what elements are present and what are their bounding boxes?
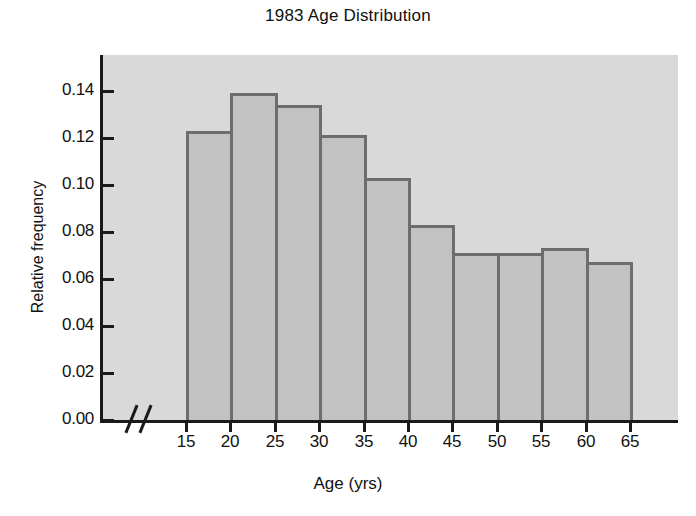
x-tick-mark: [229, 423, 232, 432]
x-tick-mark: [407, 423, 410, 432]
bar: [408, 225, 455, 420]
bar: [541, 248, 589, 420]
y-axis-title: Relative frequency: [29, 97, 47, 397]
y-tick-mark: [103, 90, 114, 93]
y-tick-label-text: 0.00: [36, 409, 94, 429]
x-tick-label: 20: [210, 432, 250, 452]
bar: [497, 253, 544, 420]
y-tick-label: 0.00: [26, 409, 94, 429]
y-tick-mark: [103, 325, 114, 328]
x-tick-mark: [185, 423, 188, 432]
x-tick-label: 30: [299, 432, 339, 452]
x-tick-label: 65: [610, 432, 650, 452]
x-tick-mark: [363, 423, 366, 432]
bar: [452, 253, 500, 420]
x-tick-label: 50: [477, 432, 517, 452]
x-axis-title: Age (yrs): [0, 474, 696, 494]
x-tick-label: 35: [344, 432, 384, 452]
bar: [364, 178, 411, 420]
x-tick-mark: [274, 423, 277, 432]
axis-break-icon: [126, 404, 160, 434]
bar: [586, 262, 633, 420]
bar: [186, 131, 233, 420]
x-tick-mark: [496, 423, 499, 432]
bar: [275, 105, 322, 420]
y-tick-mark: [103, 231, 114, 234]
x-tick-mark: [451, 423, 454, 432]
x-tick-mark: [318, 423, 321, 432]
x-tick-label: 40: [388, 432, 428, 452]
x-tick-label: 15: [166, 432, 206, 452]
y-tick-mark: [103, 137, 114, 140]
bar: [230, 93, 278, 420]
chart-title: 1983 Age Distribution: [0, 6, 696, 26]
y-axis-line: [100, 55, 103, 421]
x-tick-mark: [629, 423, 632, 432]
x-tick-mark: [585, 423, 588, 432]
y-tick-mark: [103, 278, 114, 281]
x-tick-label: 60: [566, 432, 606, 452]
x-tick-label: 55: [521, 432, 561, 452]
x-tick-label: 25: [255, 432, 295, 452]
y-tick-mark: [103, 184, 114, 187]
bar: [319, 135, 367, 420]
y-tick-mark: [103, 372, 114, 375]
y-tick-mark: [103, 419, 114, 422]
x-tick-label: 45: [432, 432, 472, 452]
x-tick-mark: [540, 423, 543, 432]
